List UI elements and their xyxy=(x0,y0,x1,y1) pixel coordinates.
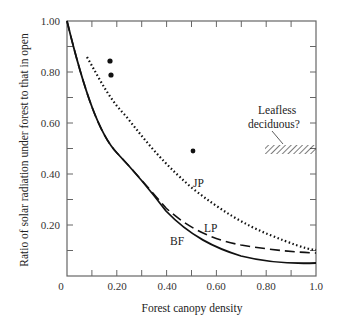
y-tick-label: 0.20 xyxy=(41,219,61,231)
y-tick-label: 0.80 xyxy=(41,66,61,78)
y-tick-label: 0.60 xyxy=(41,117,61,129)
y-tick-label: 0.40 xyxy=(41,168,61,180)
x-axis-label: Forest canopy density xyxy=(142,302,243,315)
x-tick-label: 0.20 xyxy=(107,280,127,292)
data-point xyxy=(191,149,196,154)
y-axis-label: Ratio of solar radiation under forest to… xyxy=(18,33,31,267)
lp-label: LP xyxy=(204,222,217,234)
origin-label: 0 xyxy=(58,280,64,292)
bf-label: BF xyxy=(170,235,184,247)
x-tick-label: 1.0 xyxy=(309,280,323,292)
x-tick-label: 0.80 xyxy=(256,280,276,292)
y-tick-label: 1.00 xyxy=(41,15,61,27)
leafless-deciduous-region xyxy=(265,145,316,154)
annotation-line1: Leafless xyxy=(258,104,297,116)
annotation-line2: deciduous? xyxy=(248,118,300,130)
x-tick-label: 0.60 xyxy=(206,280,226,292)
chart: 1.00 0.80 0.60 0.40 0.20 0 0.20 0.40 0.6… xyxy=(0,0,339,323)
data-point xyxy=(107,58,112,63)
x-ticks xyxy=(92,21,291,276)
lp-curve xyxy=(67,21,316,253)
x-tick-label: 0.40 xyxy=(157,280,177,292)
annotation-leader-line xyxy=(272,131,283,144)
jp-label: JP xyxy=(193,177,204,189)
data-point xyxy=(108,72,113,77)
